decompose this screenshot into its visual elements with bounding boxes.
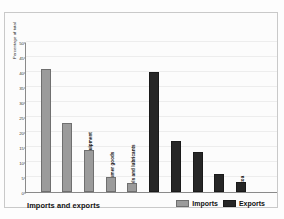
legend-swatch-imports [176,200,189,207]
y-axis-label: Percentage of total [12,0,17,59]
gridline [26,41,277,42]
plot-area: Percentage of total 05101520253035404550… [25,43,277,193]
bar-coffee[interactable] [214,174,224,192]
y-tick-mark [24,103,26,104]
bar-fuels-and-lubricants[interactable] [127,183,137,192]
y-tick-mark [24,163,26,164]
y-tick-mark [24,193,26,194]
legend-label-imports: Imports [192,200,218,207]
chart-legend: Imports Exports [176,200,265,207]
bar-industrial-capital-goods[interactable] [62,123,72,192]
y-tick-mark [24,73,26,74]
bar-cocoa[interactable] [236,182,246,193]
chart-title: Imports and exports [27,201,100,210]
y-tick-mark [24,178,26,179]
bar-transportation-equipment[interactable] [84,150,94,192]
y-tick-mark [24,118,26,119]
bar-petroleum-and-petroleum-products[interactable] [149,72,159,192]
chart-figure: Percentage of total 05101520253035404550… [0,0,284,219]
y-tick-mark [24,58,26,59]
legend-label-exports: Exports [239,200,265,207]
bar-industrial-raw-materials[interactable] [41,69,51,192]
legend-swatch-exports [223,200,236,207]
y-tick-mark [24,43,26,44]
chart-plate: Percentage of total 05101520253035404550… [4,12,278,208]
gridline [26,56,277,57]
y-tick-mark [24,148,26,149]
bar-bananas[interactable] [193,152,203,193]
bar-consumer-goods[interactable] [106,177,116,192]
legend-item-imports: Imports [176,200,218,207]
y-tick-mark [24,88,26,89]
legend-item-exports: Exports [223,200,265,207]
bar-shrimps[interactable] [171,141,181,192]
y-tick-mark [24,133,26,134]
